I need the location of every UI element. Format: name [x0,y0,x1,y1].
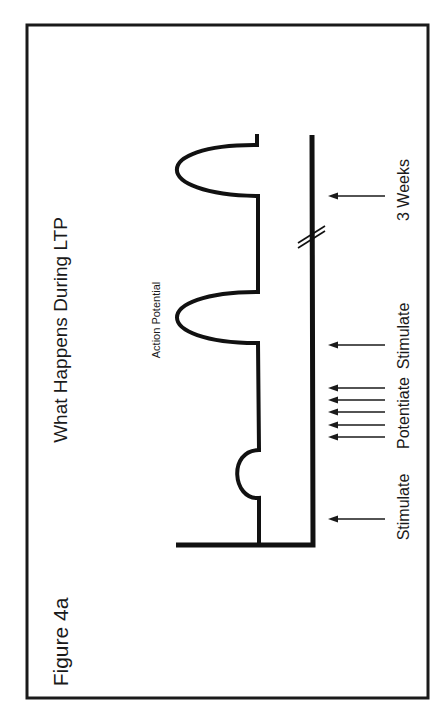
figure-frame [27,25,428,698]
arrow-left-icon [328,422,338,429]
event-label-3-weeks: 3 Weeks [395,159,412,221]
arrow-potentiate-4 [328,397,385,404]
arrow-stimulate-2 [328,342,385,349]
arrow-left-icon [328,385,338,392]
arrow-potentiate-group [328,385,385,441]
arrow-left-icon [328,193,338,200]
event-label-stimulate-1: Stimulate [395,474,412,541]
arrow-stimulate-1 [328,516,385,523]
arrow-left-icon [328,409,338,416]
figure-label: Figure 4a [49,597,72,686]
arrow-3-weeks [328,193,385,200]
diagram-canvas: Figure 4a What Happens During LTP Action… [0,0,445,716]
arrow-left-icon [328,342,338,349]
arrow-potentiate-2 [328,422,385,429]
ltp-diagram: Figure 4a What Happens During LTP Action… [0,0,445,716]
membrane-potential-trace [176,134,259,545]
action-potential-label: Action Potential [150,282,162,358]
arrow-potentiate-5 [328,385,385,392]
event-label-stimulate-2: Stimulate [395,303,412,370]
event-label-potentiate: Potentiate [395,377,412,449]
figure-title: What Happens During LTP [50,217,71,443]
arrow-left-icon [328,516,338,523]
arrow-potentiate-3 [328,409,385,416]
arrow-left-icon [328,397,338,404]
arrow-left-icon [328,434,338,441]
arrow-potentiate-1 [328,434,385,441]
